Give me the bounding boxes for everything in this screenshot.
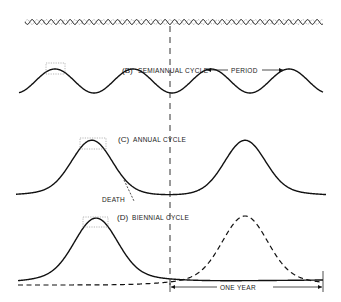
one-year-arrowhead-left — [171, 285, 175, 289]
annual-prefix: (C) — [118, 135, 129, 144]
biennial-title: BIENNIAL CYCLE — [132, 214, 189, 221]
one-year-arrowhead-right — [318, 285, 322, 289]
death-label: DEATH — [102, 196, 125, 203]
period-label: PERIOD — [231, 67, 258, 74]
semiannual-title: SEMIANNUAL CYCLE — [138, 67, 209, 74]
one-year-label: ONE YEAR — [220, 284, 256, 291]
population-cycles-diagram: (B) SEMIANNUAL CYCLE PERIOD (C) ANNUAL C… — [0, 0, 341, 302]
annual-curve — [16, 140, 326, 194]
biennial-prefix: (D) — [117, 213, 128, 222]
annual-title: ANNUAL CYCLE — [133, 136, 187, 143]
